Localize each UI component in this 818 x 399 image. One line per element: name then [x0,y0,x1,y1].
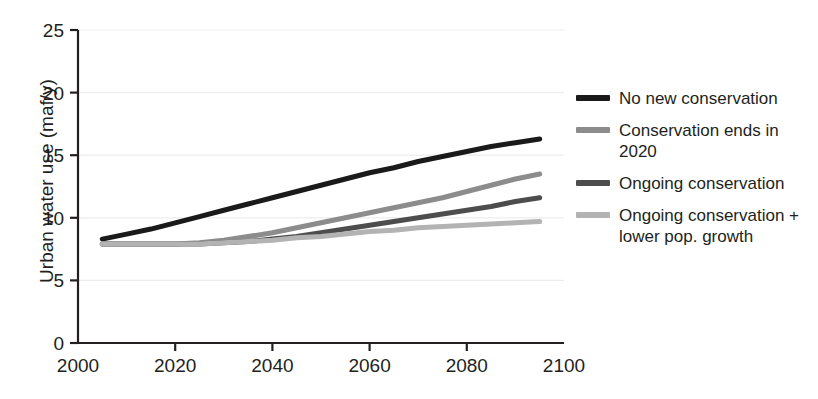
legend-swatch-icon [576,127,610,133]
y-tick-label: 25 [43,20,64,41]
y-tick-label: 5 [53,270,64,291]
chart-legend: No new conservationConservation ends in … [576,88,818,258]
legend-item-label: Conservation ends in 2020 [619,120,818,162]
legend-item[interactable]: Ongoing conservation + lower pop. growth [576,205,818,247]
y-tick-label: 20 [43,83,64,104]
x-axis-ticks: 200020202040206020802100 [57,343,585,376]
chart-figure: Urban water use (maf/y) 0510152025 20002… [0,0,818,399]
x-tick-label: 2080 [446,355,488,376]
y-axis-ticks: 0510152025 [43,20,78,354]
x-tick-label: 2000 [57,355,99,376]
legend-item[interactable]: No new conservation [576,88,818,109]
legend-swatch-icon [576,95,610,101]
legend-item-label: No new conservation [619,88,778,109]
legend-swatch-icon [576,180,610,186]
legend-item-label: Ongoing conservation [619,173,784,194]
x-tick-label: 2020 [154,355,196,376]
x-tick-label: 2100 [543,355,585,376]
legend-item-label: Ongoing conservation + lower pop. growth [619,205,818,247]
legend-item[interactable]: Ongoing conservation [576,173,818,194]
y-tick-label: 15 [43,145,64,166]
x-tick-label: 2040 [251,355,293,376]
y-tick-label: 10 [43,208,64,229]
y-tick-label: 0 [53,333,64,354]
legend-swatch-icon [576,212,610,218]
x-tick-label: 2060 [348,355,390,376]
legend-item[interactable]: Conservation ends in 2020 [576,120,818,162]
